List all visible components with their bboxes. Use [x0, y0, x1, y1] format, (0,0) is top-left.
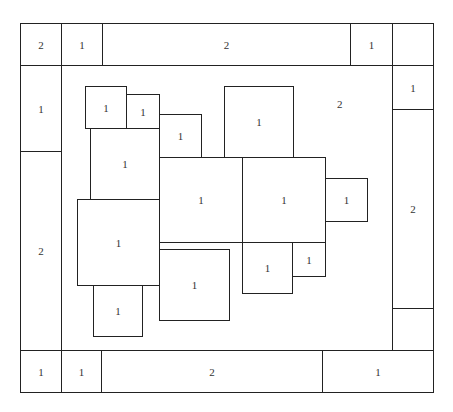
top-cell-1: 2 [20, 23, 62, 66]
inner-box-4: 1 [224, 86, 294, 158]
box-label: 1 [306, 254, 312, 266]
cell-label: 2 [38, 245, 44, 257]
box-label: 1 [115, 305, 121, 317]
inner-box-1: 1 [85, 86, 127, 129]
box-label: 1 [281, 194, 287, 206]
box-label: 1 [140, 106, 146, 118]
box-label: 1 [198, 194, 204, 206]
box-label: 1 [178, 130, 184, 142]
top-cell-4: 1 [350, 23, 393, 66]
inner-box-12: 1 [242, 242, 293, 294]
right-cell-1: 1 [392, 65, 434, 110]
right-cell-3 [392, 308, 434, 351]
inner-box-13: 1 [292, 242, 326, 277]
cell-label: 1 [79, 366, 85, 378]
inner-box-5: 1 [90, 128, 160, 200]
box-label: 1 [103, 102, 109, 114]
inner-box-10: 1 [93, 285, 143, 337]
right-cell-2: 2 [392, 109, 434, 309]
box-label: 1 [116, 237, 122, 249]
left-cell-1: 1 [20, 65, 62, 152]
cell-label: 1 [38, 103, 44, 115]
inner-box-7: 1 [242, 157, 326, 243]
cell-label: 2 [410, 203, 416, 215]
inner-box-3: 1 [159, 114, 202, 158]
bottom-cell-2: 1 [61, 350, 102, 393]
box-label: 1 [122, 158, 128, 170]
bottom-cell-4: 1 [322, 350, 434, 393]
cell-label: 1 [369, 39, 375, 51]
box-label: 1 [265, 262, 271, 274]
box-label: 1 [192, 279, 198, 291]
cell-label: 1 [375, 366, 381, 378]
bottom-cell-3: 2 [101, 350, 323, 393]
inner-box-9: 1 [77, 199, 160, 286]
box-label: 1 [256, 116, 262, 128]
top-cell-5 [392, 23, 434, 66]
top-cell-2: 1 [61, 23, 103, 66]
cell-label: 1 [410, 82, 416, 94]
inner-box-11: 1 [159, 249, 230, 321]
cell-label: 2 [209, 366, 215, 378]
cell-label: 1 [38, 366, 44, 378]
cell-label: 2 [38, 39, 44, 51]
box-label: 1 [344, 194, 350, 206]
central-area-label: 2 [337, 98, 343, 110]
inner-box-2: 1 [126, 94, 160, 129]
bottom-cell-1: 1 [20, 350, 62, 393]
cell-label: 2 [224, 39, 230, 51]
left-cell-2: 2 [20, 151, 62, 351]
top-cell-3: 2 [102, 23, 351, 66]
inner-box-6: 1 [159, 157, 243, 243]
cell-label: 1 [79, 39, 85, 51]
inner-box-8: 1 [325, 178, 368, 222]
